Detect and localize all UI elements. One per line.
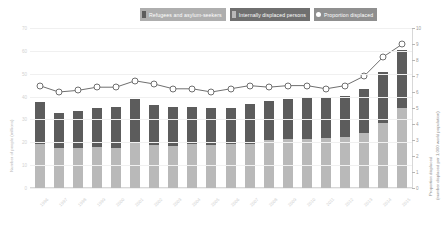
- right-axis-tickmark: [412, 76, 415, 77]
- right-axis-tick: 6: [416, 90, 419, 95]
- right-axis-tickmark: [412, 140, 415, 141]
- line-marker[interactable]: [93, 84, 100, 91]
- left-axis-tick: 30: [22, 117, 27, 122]
- x-axis-tick-label: 2007: [249, 197, 259, 207]
- line-marker[interactable]: [227, 85, 234, 92]
- line-marker[interactable]: [36, 82, 43, 89]
- gridline: [30, 28, 412, 29]
- x-axis-tick-label: 1998: [77, 197, 87, 207]
- line-marker[interactable]: [170, 85, 177, 92]
- legend-item-proportion[interactable]: Proportion displaced: [314, 8, 377, 21]
- right-axis-tick: 9: [416, 42, 419, 47]
- right-axis-tickmark: [412, 108, 415, 109]
- gridline: [30, 51, 412, 52]
- gridline: [30, 97, 412, 98]
- line-marker[interactable]: [342, 82, 349, 89]
- legend-item-idp[interactable]: Internally displaced persons: [230, 8, 310, 21]
- line-marker[interactable]: [132, 77, 139, 84]
- x-axis-tick-label: 2004: [191, 197, 201, 207]
- x-axis-tick-label: 1996: [38, 197, 48, 207]
- right-axis-tickmark: [412, 156, 415, 157]
- right-axis-tick: 0: [416, 186, 419, 191]
- x-axis-tick-label: 2005: [210, 197, 220, 207]
- right-axis-title-line2: (number displaced per 1,000 world popula…: [435, 111, 440, 200]
- x-axis-tick-label: 2003: [172, 197, 182, 207]
- right-axis-tickmark: [412, 92, 415, 93]
- displacement-chart: Refugees and asylum-seekers Internally d…: [0, 0, 446, 231]
- x-axis-tick-label: 2001: [134, 197, 144, 207]
- x-axis-tick-label: 2010: [306, 197, 316, 207]
- right-axis-title-line1: Proportion displaced: [428, 157, 433, 196]
- x-axis-tick-label: 2012: [344, 197, 354, 207]
- x-axis-tick-label: 1997: [58, 197, 68, 207]
- left-axis-tick: 60: [22, 48, 27, 53]
- legend-label-proportion: Proportion displaced: [324, 12, 373, 18]
- line-marker[interactable]: [265, 84, 272, 91]
- x-axis-tick-label: 2015: [401, 197, 411, 207]
- line-marker[interactable]: [55, 89, 62, 96]
- x-axis-labels: 1996199719981999200020012002200320042005…: [30, 190, 412, 230]
- line-marker[interactable]: [151, 81, 158, 88]
- line-marker[interactable]: [208, 89, 215, 96]
- line-marker[interactable]: [323, 85, 330, 92]
- legend-label-refugees: Refugees and asylum-seekers: [149, 12, 222, 18]
- x-axis-tick-label: 2011: [325, 197, 335, 207]
- right-axis-tick: 1: [416, 170, 419, 175]
- x-axis-tick-label: 2002: [153, 197, 163, 207]
- legend-swatch-idp: [232, 11, 236, 18]
- x-axis-tick-label: 2009: [287, 197, 297, 207]
- right-axis-tickmark: [412, 188, 415, 189]
- right-axis-tickmark: [412, 44, 415, 45]
- legend-item-refugees[interactable]: Refugees and asylum-seekers: [140, 8, 226, 21]
- line-marker[interactable]: [303, 82, 310, 89]
- line-marker[interactable]: [284, 82, 291, 89]
- left-axis-tick: 40: [22, 94, 27, 99]
- line-marker[interactable]: [112, 84, 119, 91]
- x-axis-tick-label: 2013: [363, 197, 373, 207]
- x-axis-tick-label: 2008: [268, 197, 278, 207]
- right-axis-tick: 5: [416, 106, 419, 111]
- line-marker[interactable]: [246, 82, 253, 89]
- gridline: [30, 119, 412, 120]
- line-marker[interactable]: [399, 41, 406, 48]
- gridline: [30, 165, 412, 166]
- gridline: [30, 74, 412, 75]
- x-axis-tick-label: 2014: [382, 197, 392, 207]
- gridline: [30, 142, 412, 143]
- gridline: [30, 188, 412, 189]
- left-axis-tick: 0: [24, 186, 27, 191]
- left-axis-title: Number of people (millions): [9, 119, 14, 172]
- right-axis-tick: 8: [416, 58, 419, 63]
- legend-label-idp: Internally displaced persons: [239, 12, 306, 18]
- x-axis-tick-label: 1999: [96, 197, 106, 207]
- line-marker[interactable]: [74, 87, 81, 94]
- line-marker[interactable]: [380, 53, 387, 60]
- right-axis-tick: 3: [416, 138, 419, 143]
- proportion-line-series: [30, 28, 412, 188]
- legend-swatch-proportion: [316, 12, 321, 17]
- right-axis-tickmark: [412, 124, 415, 125]
- left-axis-tick: 20: [22, 140, 27, 145]
- x-axis-tick-label: 2000: [115, 197, 125, 207]
- right-axis-tick: 7: [416, 74, 419, 79]
- line-marker[interactable]: [189, 85, 196, 92]
- right-axis-tickmark: [412, 172, 415, 173]
- right-axis-tickmark: [412, 60, 415, 61]
- left-axis-tick: 70: [22, 26, 27, 31]
- legend-swatch-refugees: [142, 11, 146, 18]
- chart-legend: Refugees and asylum-seekers Internally d…: [140, 8, 377, 21]
- right-axis-tick: 10: [416, 26, 421, 31]
- plot-area: 706050403020100109876543210: [30, 28, 412, 188]
- right-axis-tick: 2: [416, 154, 419, 159]
- left-axis-tick: 10: [22, 163, 27, 168]
- right-axis-tick: 4: [416, 122, 419, 127]
- right-axis-tickmark: [412, 28, 415, 29]
- left-axis-tick: 50: [22, 71, 27, 76]
- x-axis-tick-label: 2006: [229, 197, 239, 207]
